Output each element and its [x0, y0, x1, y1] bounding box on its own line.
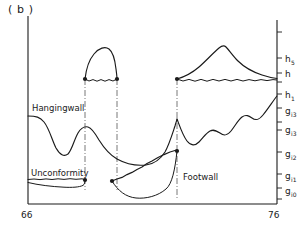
- curve-hangingwall-left: [28, 116, 177, 165]
- ylabel-gi0-base: g: [285, 186, 291, 196]
- pin-dome-left: [83, 77, 87, 81]
- annotation-unconformity: Unconformity: [31, 168, 88, 178]
- pin-unconformity-right: [83, 178, 87, 182]
- x-axis-labels: 66 76: [21, 210, 280, 220]
- ylabel-gi3b-sub: i3: [291, 130, 297, 137]
- ylabel-gi1-base: g: [285, 171, 291, 181]
- curve-unconformity-upper: [28, 179, 85, 180]
- curve-footwall-upper: [112, 150, 177, 181]
- pin-footwall-left: [110, 179, 114, 183]
- pin-right-base: [175, 77, 179, 81]
- right-axis-ticks: [277, 32, 282, 199]
- curve-dome-base: [85, 79, 117, 81]
- pin-footwall-right: [175, 149, 179, 153]
- fault-traces: [85, 79, 177, 198]
- ylabel-h5-sub: 5: [291, 59, 295, 66]
- ylabel-gi3a-sub: i3: [291, 111, 297, 118]
- xlabel-right: 76: [268, 210, 280, 220]
- ylabel-h1-base: h: [285, 90, 291, 100]
- pin-points: [83, 77, 179, 183]
- ylabel-h-base: h: [285, 69, 291, 79]
- xlabel-left: 66: [21, 210, 33, 220]
- curve-right-wavy-base: [177, 79, 277, 81]
- pin-dome-right: [115, 77, 119, 81]
- plot-annotations: Hangingwall Unconformity Footwall: [31, 103, 218, 182]
- ylabel-gi0-sub: i0: [291, 191, 297, 198]
- ylabel-gi3a-base: g: [285, 106, 291, 116]
- annotation-hangingwall: Hangingwall: [32, 103, 84, 113]
- ylabel-gi2-sub: i2: [291, 154, 297, 161]
- ylabel-gi2-base: g: [285, 149, 291, 159]
- ylabel-h5-base: h: [285, 54, 291, 64]
- right-axis-labels: h 5 h h 1 g i3 g i3 g i2 g i1 g i0: [285, 54, 297, 198]
- ylabel-gi1-sub: i1: [291, 176, 297, 183]
- figure-panel-b: ( b ) h 5 h h: [0, 0, 301, 225]
- cross-section-plot: h 5 h h 1 g i3 g i3 g i2 g i1 g i0 66 76: [0, 0, 301, 225]
- curve-right-hump: [177, 46, 277, 79]
- curve-unconformity-lower: [28, 180, 85, 187]
- ylabel-gi3b-base: g: [285, 125, 291, 135]
- curve-right-wavy-rise: [177, 96, 277, 145]
- ylabel-h1-sub: 1: [291, 95, 295, 102]
- curve-dome-middle: [85, 48, 117, 79]
- annotation-footwall: Footwall: [183, 172, 218, 182]
- curve-footwall-lower: [112, 151, 177, 198]
